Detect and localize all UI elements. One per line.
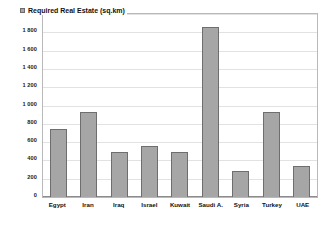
legend-label: Required Real Estate (sq.km): [28, 7, 125, 14]
y-axis-tick-label: 200: [27, 175, 37, 181]
bar-slot: [195, 14, 225, 197]
bar-slot: [256, 14, 286, 197]
bar-egypt[interactable]: [50, 129, 67, 197]
bar-turkey[interactable]: [263, 112, 280, 197]
bar-slot: [226, 14, 256, 197]
x-axis-tick-label: Turkey: [257, 202, 288, 220]
y-axis-tick-label: 400: [27, 157, 37, 163]
x-axis-tick-label: Kuwait: [165, 202, 196, 220]
y-axis-tick-label: 0: [34, 193, 37, 199]
x-axis-tick-label: Syria: [226, 202, 257, 220]
bar-iraq[interactable]: [111, 152, 128, 197]
x-axis-tick-label: Saudi A.: [195, 202, 226, 220]
bar-saudi-a[interactable]: [202, 27, 219, 197]
x-axis: EgyptIranIraqIsraelKuwaitSaudi A.SyriaTu…: [42, 202, 318, 220]
y-axis-tick-label: 600: [27, 138, 37, 144]
y-axis-tick-label: 1 800: [23, 29, 38, 35]
x-axis-tick-label: Iran: [73, 202, 104, 220]
y-axis-tick-label: 1 200: [23, 83, 38, 89]
bar-chart: 02004006008001 0001 2001 4001 6001 8002 …: [0, 0, 327, 232]
bar-slot: [43, 14, 73, 197]
bar-iran[interactable]: [80, 112, 97, 197]
y-axis-tick-label: 1 600: [23, 47, 38, 53]
x-axis-tick-label: Egypt: [42, 202, 73, 220]
legend-swatch-icon: [20, 8, 25, 13]
bar-slot: [134, 14, 164, 197]
bar-syria[interactable]: [232, 171, 249, 197]
bar-slot: [73, 14, 103, 197]
x-axis-tick-label: Israel: [134, 202, 165, 220]
plot-area: [42, 13, 318, 198]
y-axis-tick-label: 800: [27, 120, 37, 126]
x-axis-tick-label: Iraq: [103, 202, 134, 220]
bars-layer: [43, 14, 317, 197]
bar-israel[interactable]: [141, 146, 158, 197]
bar-slot: [287, 14, 317, 197]
bar-kuwait[interactable]: [171, 152, 188, 197]
y-axis: 02004006008001 0001 2001 4001 6001 8002 …: [0, 0, 40, 232]
bar-slot: [104, 14, 134, 197]
bar-uae[interactable]: [293, 166, 310, 197]
x-axis-tick-label: UAE: [287, 202, 318, 220]
y-axis-tick-label: 1 000: [23, 102, 38, 108]
y-axis-tick-label: 1 400: [23, 65, 38, 71]
legend: Required Real Estate (sq.km): [18, 6, 127, 15]
bar-slot: [165, 14, 195, 197]
